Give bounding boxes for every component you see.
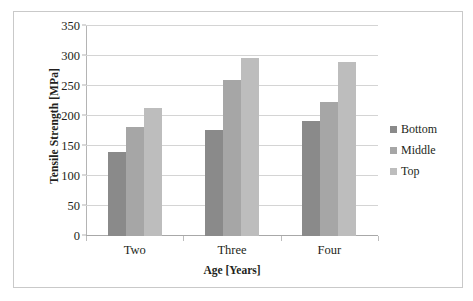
legend-swatch-icon <box>390 147 397 154</box>
x-tick-mark <box>281 236 282 241</box>
x-tick-mark <box>183 236 184 241</box>
bar-bottom <box>108 152 126 236</box>
chart-figure: Tensile Strength [MPa] 05010015020025030… <box>13 11 463 288</box>
y-tick-label: 200 <box>61 109 80 124</box>
y-axis-title: Tensile Strength [MPa] <box>48 26 60 226</box>
bar-bottom <box>205 130 223 236</box>
bar-top <box>338 62 356 236</box>
legend-item-top: Top <box>390 164 462 179</box>
y-tick-label: 300 <box>61 49 80 64</box>
bar-top <box>144 108 162 236</box>
y-tick-label: 350 <box>61 19 80 34</box>
legend-label: Middle <box>401 143 436 158</box>
bar-middle <box>320 102 338 236</box>
x-tick-label: Four <box>281 243 378 258</box>
legend-label: Top <box>401 164 420 179</box>
x-tick-mark <box>86 236 87 241</box>
y-tick-label: 100 <box>61 169 80 184</box>
bar-group: Two <box>86 26 183 236</box>
chart-legend: BottomMiddleTop <box>390 122 462 185</box>
x-tick-mark <box>378 236 379 241</box>
bar-top <box>241 58 259 236</box>
legend-item-middle: Middle <box>390 143 462 158</box>
x-tick-label: Three <box>183 243 280 258</box>
y-tick-label: 150 <box>61 139 80 154</box>
y-tick-label: 250 <box>61 79 80 94</box>
legend-label: Bottom <box>401 122 437 137</box>
bar-bottom <box>302 121 320 236</box>
legend-swatch-icon <box>390 126 397 133</box>
bar-middle <box>223 80 241 236</box>
bar-group: Three <box>183 26 280 236</box>
y-tick-label: 50 <box>68 199 81 214</box>
bar-group: Four <box>281 26 378 236</box>
legend-item-bottom: Bottom <box>390 122 462 137</box>
plot-area: 050100150200250300350 TwoThreeFour <box>86 26 378 236</box>
bar-middle <box>126 127 144 236</box>
y-tick-label: 0 <box>74 229 80 244</box>
x-tick-label: Two <box>86 243 183 258</box>
bar-groups: TwoThreeFour <box>86 26 378 236</box>
x-axis-title: Age [Years] <box>86 264 378 276</box>
legend-swatch-icon <box>390 168 397 175</box>
